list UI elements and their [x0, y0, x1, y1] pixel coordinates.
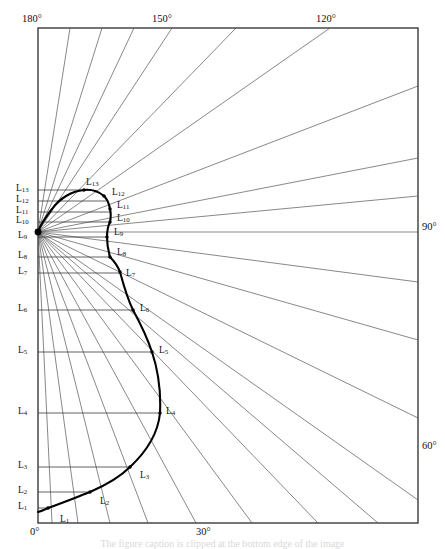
- curve-point: [108, 220, 111, 223]
- curve-point: [82, 188, 85, 191]
- radial-line: [38, 232, 418, 418]
- radial-line: [38, 232, 418, 500]
- radial-line: [38, 232, 418, 340]
- axis-label-L10: L10: [16, 216, 29, 226]
- curve-point-group: [46, 188, 161, 509]
- tick-line-group: [38, 190, 161, 508]
- angle-label-60: 60°: [422, 441, 437, 452]
- curve-point: [88, 490, 91, 493]
- curve-label-L2: L2: [100, 497, 109, 507]
- radial-line-group: [38, 28, 418, 523]
- curve-point: [105, 235, 108, 238]
- radial-line: [38, 232, 196, 523]
- curve-point: [118, 270, 121, 273]
- curve-point: [128, 465, 131, 468]
- curve-point: [108, 255, 111, 258]
- axis-label-L2: L2: [18, 486, 27, 496]
- axis-label-L5: L5: [18, 346, 27, 356]
- curve-point: [46, 506, 49, 509]
- angle-label-0: 0°: [30, 527, 39, 538]
- axis-label-L8: L8: [18, 251, 27, 261]
- curve-label-L4: L4: [166, 407, 175, 417]
- curve-label-L6: L6: [140, 304, 149, 314]
- axis-label-L12: L12: [16, 195, 29, 205]
- axis-label-L7: L7: [18, 267, 27, 277]
- axis-label-L13: L13: [16, 184, 29, 194]
- radial-line: [38, 232, 52, 523]
- radial-origin-marker: [35, 229, 42, 236]
- curve-label-L5: L5: [159, 346, 168, 356]
- curve-label-L13: L13: [86, 178, 99, 188]
- radial-line: [38, 86, 418, 232]
- curve-label-L12: L12: [112, 188, 125, 198]
- curve-point: [131, 308, 134, 311]
- curve-label-L8: L8: [117, 248, 126, 258]
- curve-point: [158, 411, 161, 414]
- curve-point: [108, 207, 111, 210]
- radial-line: [38, 232, 110, 523]
- polar-diagram-svg: [0, 0, 445, 549]
- radial-line: [38, 232, 318, 523]
- curve-label-L11: L11: [117, 201, 129, 211]
- figure-caption: The figure caption is clipped at the bot…: [0, 538, 445, 549]
- axis-label-L6: L6: [18, 304, 27, 314]
- axis-label-L1: L1: [18, 502, 27, 512]
- curve-point: [150, 350, 153, 353]
- angle-label-150: 150°: [152, 14, 172, 25]
- curve-label-L9: L9: [114, 228, 123, 238]
- angle-label-120: 120°: [316, 14, 336, 25]
- curve-point: [102, 194, 105, 197]
- angle-label-90: 90°: [422, 222, 437, 233]
- curve-label-L10: L10: [117, 214, 130, 224]
- axis-label-L9: L9: [18, 231, 27, 241]
- curve-label-L3: L3: [140, 471, 149, 481]
- figure-container: 180° 150° 120° 90° 60° 0° 30° L13 L12 L1…: [0, 0, 445, 549]
- curve-label-L7: L7: [126, 269, 135, 279]
- angle-label-180: 180°: [22, 14, 42, 25]
- radial-line: [38, 232, 378, 523]
- angle-label-30: 30°: [196, 527, 211, 538]
- radial-line: [38, 158, 418, 232]
- radial-line: [38, 232, 78, 523]
- plot-frame: [38, 28, 418, 523]
- axis-label-L4: L4: [18, 407, 27, 417]
- characteristic-curve: [38, 190, 160, 512]
- curve-label-L1: L1: [60, 515, 69, 525]
- axis-label-L3: L3: [18, 461, 27, 471]
